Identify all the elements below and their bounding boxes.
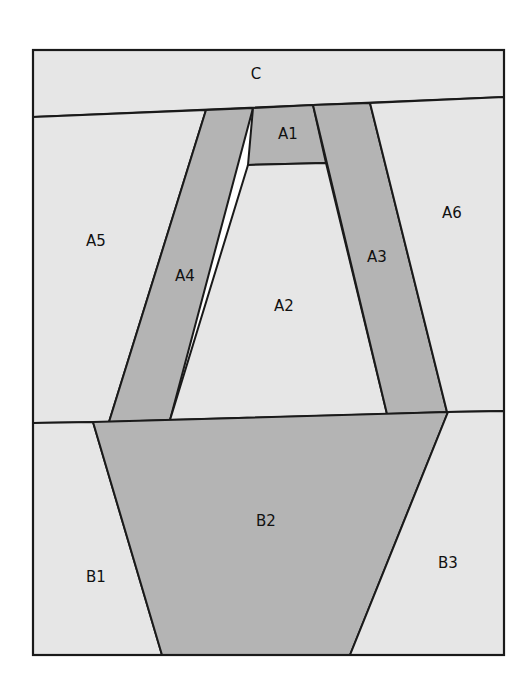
paper-piecing-diagram: CA5A4A1A2A3A6B1B2B3 [0,0,532,687]
region-label-c: C [251,65,261,83]
region-label-a1: A1 [278,125,298,143]
region-label-b2: B2 [256,512,276,530]
region-label-b1: B1 [86,568,106,586]
region-label-b3: B3 [438,554,458,572]
region-label-a6: A6 [442,204,462,222]
region-label-a2: A2 [274,297,294,315]
region-label-a5: A5 [86,232,106,250]
pattern-regions [33,50,504,655]
region-label-a4: A4 [175,267,195,285]
region-label-a3: A3 [367,248,387,266]
